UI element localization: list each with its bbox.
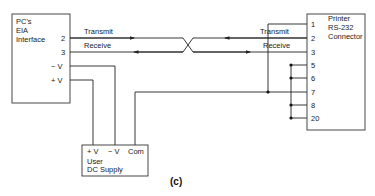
signal-wires: Transmit Receive Transmit Receive	[70, 27, 307, 52]
diagram-svg: PC's EIA Interface 2 3 − V + V Transmit …	[0, 0, 375, 196]
printer-pin-7: 7	[311, 88, 315, 97]
pc-pin-pos-v: + V	[51, 76, 62, 85]
pc-title-line-1: PC's	[16, 17, 32, 26]
printer-pin-1: 1	[311, 20, 315, 29]
printer-title-line-3: Connector	[328, 32, 363, 41]
pc-pin-neg-v: − V	[51, 62, 62, 71]
printer-receive-label: Receive	[263, 41, 290, 50]
user-dc-supply-box: + V − V Com User DC Supply	[82, 145, 148, 176]
pc-eia-interface-box: PC's EIA Interface 2 3 − V + V	[12, 14, 70, 103]
junction-dot	[266, 90, 269, 93]
printer-pin-2: 2	[311, 34, 315, 43]
supply-terminal-com: Com	[128, 147, 144, 156]
rs232-wiring-diagram: PC's EIA Interface 2 3 − V + V Transmit …	[0, 0, 375, 196]
printer-pin-6: 6	[311, 74, 315, 83]
printer-rs232-connector-box: Printer RS-232 Connector 1 2 3 5 6 7 8 2…	[307, 14, 365, 130]
printer-title-line-1: Printer	[328, 14, 351, 23]
printer-transmit-label: Transmit	[260, 27, 290, 36]
printer-pin-8: 8	[311, 101, 315, 110]
printer-title-line-2: RS-232	[328, 23, 353, 32]
supply-terminal-pos-v: + V	[87, 147, 98, 156]
supply-terminal-neg-v: − V	[108, 147, 119, 156]
printer-pin-20: 20	[311, 114, 319, 123]
pc-pin-2: 2	[61, 34, 65, 43]
printer-pin-5: 5	[311, 61, 315, 70]
printer-pin-3: 3	[311, 48, 315, 57]
supply-title-line-2: DC Supply	[87, 165, 123, 174]
handshake-bus	[289, 63, 307, 119]
pc-receive-label: Receive	[84, 41, 111, 50]
pc-transmit-label: Transmit	[84, 27, 114, 36]
pc-title-line-2: EIA	[16, 26, 28, 35]
pc-pin-3: 3	[61, 48, 65, 57]
pc-title-line-3: Interface	[16, 35, 45, 44]
figure-caption: (c)	[170, 176, 182, 187]
